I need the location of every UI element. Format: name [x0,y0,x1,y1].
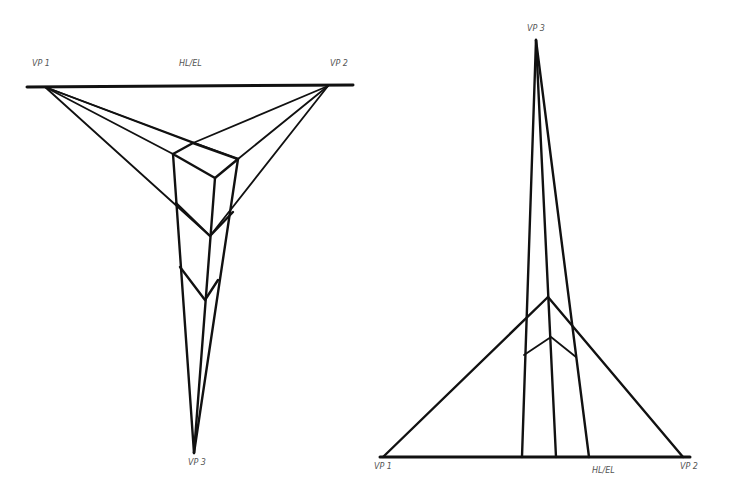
edge-left-to-vp3 [173,154,194,453]
left-vp2-label: VP 2 [330,59,348,68]
right-vp1-label: VP 1 [374,462,392,471]
box-top-face [173,143,238,178]
edge-front-to-vp3 [194,178,215,453]
left-vp1-label: VP 1 [32,59,50,68]
ray-vp2-right [238,86,328,159]
right-vp3-label: VP 3 [527,24,545,33]
left-vp3-label: VP 3 [188,458,206,467]
right-horizon-label: HL/EL [592,466,615,475]
ray-vp2-bottom [210,86,328,236]
edge-right-from-vp3 [536,40,589,457]
left-figure [27,85,353,453]
edge-right-to-vp3 [194,159,238,453]
right-figure [380,40,690,457]
edge-left-from-vp3 [522,40,536,457]
ray-vp2-back [193,86,328,143]
ray-vp2-apex [548,297,683,457]
edge-front-from-vp3 [536,40,556,457]
right-vp2-label: VP 2 [680,462,698,471]
left-horizon-line [27,85,353,87]
perspective-diagram [0,0,732,493]
box-lower-edge [180,267,218,300]
box-bottom-edge [176,203,233,236]
left-horizon-label: HL/EL [179,59,202,68]
